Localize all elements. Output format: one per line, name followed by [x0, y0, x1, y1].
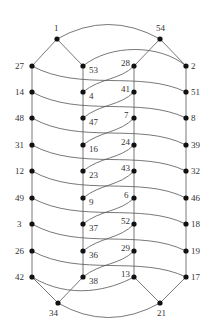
node-label: 2 [191, 61, 196, 71]
graph-node-28 [131, 63, 136, 68]
graph-node-2 [183, 63, 188, 68]
graph-node-46 [183, 195, 188, 200]
graph-edge [134, 277, 160, 303]
graph-node-32 [183, 168, 188, 173]
node-label: 32 [191, 166, 200, 176]
graph-node-53 [80, 63, 85, 68]
graph-node-52 [131, 221, 136, 226]
node-label: 8 [191, 113, 196, 123]
graph-node-8 [183, 115, 188, 120]
graph-edge [134, 39, 160, 66]
graph-node-12 [29, 168, 34, 173]
graph-node-9 [80, 195, 85, 200]
node-label: 3 [17, 219, 22, 229]
node-label: 6 [124, 190, 129, 200]
graph-node-49 [29, 195, 34, 200]
node-label: 7 [124, 110, 129, 120]
node-label: 46 [191, 193, 201, 203]
graph-edge [57, 39, 83, 66]
node-label: 24 [121, 137, 131, 147]
graph-node-34 [55, 300, 60, 305]
graph-node-1 [54, 36, 59, 41]
graph-edge [32, 118, 186, 145]
graph-node-48 [29, 115, 34, 120]
node-label: 19 [191, 246, 201, 256]
graph-node-6 [131, 195, 136, 200]
node-label: 42 [15, 272, 24, 282]
graph-node-26 [29, 248, 34, 253]
graph-node-19 [183, 248, 188, 253]
graph-node-14 [29, 89, 34, 94]
node-label: 38 [89, 276, 99, 286]
graph-edge [32, 277, 58, 303]
node-label: 12 [15, 166, 24, 176]
graph-edge [160, 277, 186, 303]
graph-edge [58, 303, 160, 318]
node-label: 26 [15, 246, 25, 256]
graph-node-17 [183, 274, 188, 279]
graph-node-23 [80, 168, 85, 173]
graph-node-37 [80, 221, 85, 226]
graph-edge [57, 25, 160, 40]
node-label: 34 [49, 308, 59, 318]
graph-node-39 [183, 142, 188, 147]
graph-node-27 [29, 63, 34, 68]
graph-edge [32, 171, 186, 198]
node-label: 28 [121, 58, 131, 68]
graph-edge [58, 277, 83, 303]
graph-node-24 [131, 142, 136, 147]
graph-edge [160, 39, 186, 66]
graph-node-13 [131, 274, 136, 279]
node-label: 29 [121, 243, 131, 253]
graph-edge [32, 224, 186, 251]
node-label: 53 [89, 65, 99, 75]
graph-canvas: 1542753282144415148477831162439122343324… [0, 0, 216, 336]
graph-node-16 [80, 142, 85, 147]
node-label: 48 [15, 113, 25, 123]
node-label: 14 [15, 87, 25, 97]
graph-node-51 [183, 89, 188, 94]
graph-diagram: 1542753282144415148477831162439122343324… [0, 0, 216, 336]
node-label: 49 [15, 193, 25, 203]
node-label: 18 [191, 219, 201, 229]
node-label: 36 [89, 250, 99, 260]
graph-node-42 [29, 274, 34, 279]
graph-node-47 [80, 115, 85, 120]
node-label: 4 [89, 91, 94, 101]
node-label: 39 [191, 140, 201, 150]
node-label: 23 [89, 170, 99, 180]
graph-node-43 [131, 168, 136, 173]
node-label: 52 [121, 216, 130, 226]
node-label: 9 [89, 197, 94, 207]
graph-node-29 [131, 248, 136, 253]
node-label: 37 [89, 223, 99, 233]
graph-node-21 [157, 300, 162, 305]
graph-node-41 [131, 89, 136, 94]
node-label: 27 [15, 61, 25, 71]
graph-node-4 [80, 89, 85, 94]
node-label: 41 [121, 84, 130, 94]
graph-node-36 [80, 248, 85, 253]
node-label: 1 [54, 23, 59, 33]
node-label: 21 [157, 308, 166, 318]
node-label: 43 [121, 163, 131, 173]
node-label: 13 [121, 269, 131, 279]
node-label: 54 [156, 23, 166, 33]
node-label: 47 [89, 117, 99, 127]
graph-node-54 [157, 36, 162, 41]
graph-node-18 [183, 221, 188, 226]
graph-edge [32, 39, 57, 66]
node-label: 16 [89, 144, 99, 154]
graph-node-3 [29, 221, 34, 226]
node-label: 31 [15, 140, 24, 150]
node-label: 17 [191, 272, 201, 282]
graph-node-31 [29, 142, 34, 147]
graph-node-38 [80, 274, 85, 279]
graph-node-7 [131, 115, 136, 120]
node-label: 51 [191, 87, 200, 97]
